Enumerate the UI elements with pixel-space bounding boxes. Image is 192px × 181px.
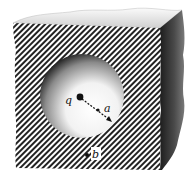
label-a: a (104, 102, 111, 115)
radius-a-midpoint (96, 108, 99, 111)
block-side-face (159, 10, 185, 170)
label-b: b (92, 148, 99, 161)
point-b-dot (85, 153, 89, 157)
conductor-cavity-diagram: q a b (0, 0, 192, 181)
label-q: q (65, 94, 72, 107)
